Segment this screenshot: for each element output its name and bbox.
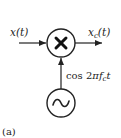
figure-caption: (a) <box>2 126 16 137</box>
modulator-diagram: x(t) xc(t) cos 2πfct (a) <box>0 0 121 138</box>
input-label: x(t) <box>10 26 28 38</box>
carrier-label: cos 2πfct <box>66 70 112 83</box>
output-label: xc(t) <box>88 26 110 40</box>
oscillator-node <box>47 89 75 117</box>
multiplier-node <box>47 29 75 57</box>
